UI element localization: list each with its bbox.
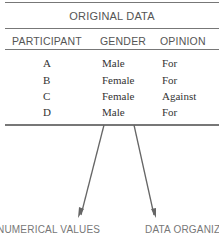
numerical-values-label: NUMERICAL VALUES: [0, 224, 100, 233]
arrows-svg: [0, 0, 219, 233]
data-organization-label: DATA ORGANIZ: [145, 224, 219, 233]
arrow-left-icon: [78, 125, 104, 218]
arrow-right-icon: [134, 125, 156, 218]
